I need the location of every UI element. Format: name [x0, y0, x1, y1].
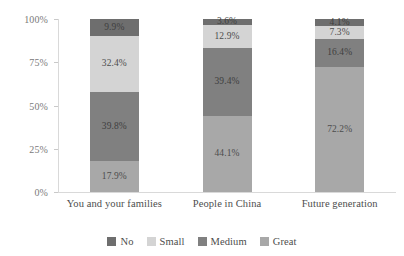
bar-stack[interactable]: 3.6%12.9%39.4%44.1%	[203, 19, 252, 192]
legend-item[interactable]: No	[107, 236, 133, 247]
category-label: People in China	[193, 198, 262, 209]
bar-segment-value-label: 9.9%	[104, 23, 124, 33]
y-tick-label: 75%	[29, 57, 48, 68]
bar-segment-value-label: 44.1%	[214, 149, 239, 159]
y-tick-mark	[54, 192, 58, 193]
bar-segment[interactable]: 39.4%	[203, 48, 252, 116]
stacked-bar-chart: 100%75%50%25%0% 9.9%32.4%39.8%17.9%3.6%1…	[0, 0, 404, 256]
legend-item[interactable]: Small	[147, 236, 185, 247]
x-axis-baseline	[58, 192, 396, 193]
bar-segment-value-label: 39.4%	[214, 77, 239, 87]
y-tick-label: 0%	[34, 187, 48, 198]
y-tick-mark	[54, 149, 58, 150]
bar-segment[interactable]: 17.9%	[90, 161, 139, 192]
y-tick-mark	[54, 106, 58, 107]
bar-segment[interactable]: 72.2%	[315, 67, 364, 192]
bar-segment[interactable]: 9.9%	[90, 19, 139, 36]
y-tick-label: 100%	[24, 14, 48, 25]
bar-segment-value-label: 7.3%	[330, 28, 350, 38]
bar-segment[interactable]: 39.8%	[90, 92, 139, 161]
bar-segment[interactable]: 4.1%	[315, 19, 364, 26]
legend-item[interactable]: Great	[260, 236, 297, 247]
category-axis-labels: You and your familiesPeople in ChinaFutu…	[58, 198, 396, 218]
bar-segment[interactable]: 7.3%	[315, 26, 364, 39]
bar-segment[interactable]: 44.1%	[203, 116, 252, 192]
legend-swatch-icon	[147, 237, 156, 246]
legend-item[interactable]: Medium	[198, 236, 247, 247]
y-tick-label: 50%	[29, 100, 48, 111]
y-tick-mark	[54, 62, 58, 63]
bar-segment-value-label: 72.2%	[327, 125, 352, 135]
bar-stack[interactable]: 4.1%7.3%16.4%72.2%	[315, 19, 364, 192]
legend-label: Medium	[211, 236, 247, 247]
legend-swatch-icon	[107, 237, 116, 246]
plot-area: 9.9%32.4%39.8%17.9%3.6%12.9%39.4%44.1%4.…	[58, 19, 396, 192]
y-axis: 100%75%50%25%0%	[0, 19, 52, 192]
y-tick-mark	[54, 19, 58, 20]
bar-segment[interactable]: 12.9%	[203, 25, 252, 47]
legend-label: Great	[273, 236, 297, 247]
bar-segment-value-label: 17.9%	[102, 172, 127, 182]
legend-swatch-icon	[198, 237, 207, 246]
legend-label: No	[120, 236, 133, 247]
bar-segment[interactable]: 32.4%	[90, 36, 139, 92]
y-tick-label: 25%	[29, 143, 48, 154]
legend-label: Small	[160, 236, 185, 247]
bar-stack[interactable]: 9.9%32.4%39.8%17.9%	[90, 19, 139, 192]
category-label: Future generation	[302, 198, 378, 209]
bar-segment-value-label: 16.4%	[327, 48, 352, 58]
category-label: You and your families	[67, 198, 162, 209]
chart-legend: NoSmallMediumGreat	[0, 232, 404, 250]
bar-segment[interactable]: 16.4%	[315, 39, 364, 67]
bar-segment-value-label: 39.8%	[102, 122, 127, 132]
bar-segment-value-label: 12.9%	[214, 32, 239, 42]
legend-swatch-icon	[260, 237, 269, 246]
bar-segment-value-label: 32.4%	[102, 59, 127, 69]
